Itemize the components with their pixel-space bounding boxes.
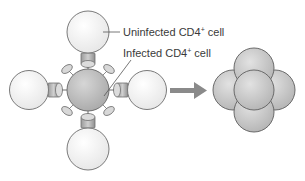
receptor-top — [81, 53, 95, 70]
uninfected-cell-label: Uninfected CD4+ cell — [123, 26, 224, 38]
uninfected-cell-left — [10, 71, 49, 110]
uninfected-cell-bottom — [67, 128, 109, 170]
receptor-left — [48, 83, 67, 97]
uninfected-cell-top — [67, 11, 109, 53]
syncytium — [213, 48, 295, 132]
infected-cell-label: Infected CD4+ cell — [123, 47, 211, 59]
right-arrow-icon — [170, 82, 207, 99]
uninfected-cell-right — [128, 71, 167, 110]
receptor-bottom — [81, 111, 95, 128]
infected-cell — [67, 69, 109, 111]
